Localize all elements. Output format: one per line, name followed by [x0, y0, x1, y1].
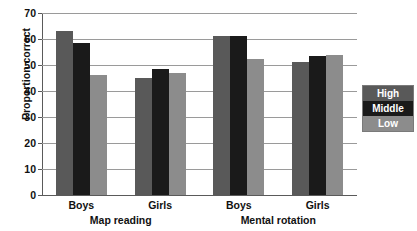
bar-high-girls-3: [292, 62, 309, 195]
group-label-boys-2: Boys: [226, 199, 252, 211]
bar-low-boys-2: [247, 59, 264, 196]
panel-label-map-reading: Map reading: [90, 214, 152, 226]
bar-high-boys-0: [56, 31, 73, 195]
y-tick-label: 10: [24, 163, 36, 175]
plot-area: 010203040506070: [42, 13, 357, 196]
y-tick-label: 60: [24, 33, 36, 45]
panel-label-mental-rotation: Mental rotation: [241, 214, 316, 226]
bar-low-girls-1: [169, 73, 186, 195]
legend-item-middle[interactable]: Middle: [363, 101, 413, 116]
y-tick-mark: [38, 91, 42, 92]
group-label-girls-1: Girls: [148, 199, 172, 211]
group-label-boys-0: Boys: [69, 199, 95, 211]
chart-legend[interactable]: HighMiddleLow: [362, 85, 414, 132]
y-tick-label: 20: [24, 137, 36, 149]
y-tick-mark: [38, 169, 42, 170]
y-tick-mark: [38, 39, 42, 40]
y-tick-mark: [38, 195, 42, 196]
group-label-girls-3: Girls: [306, 199, 330, 211]
gridline: [42, 13, 357, 14]
y-tick-label: 30: [24, 111, 36, 123]
bar-middle-girls-1: [152, 69, 169, 195]
bar-chart-figure: Proportion correct 010203040506070 BoysG…: [0, 0, 417, 231]
gridline: [42, 39, 357, 40]
bar-middle-boys-2: [230, 36, 247, 195]
x-axis-line: [42, 195, 357, 196]
bar-middle-girls-3: [309, 56, 326, 195]
y-tick-label: 50: [24, 59, 36, 71]
bar-low-boys-0: [90, 75, 107, 195]
y-tick-mark: [38, 13, 42, 14]
y-tick-mark: [38, 65, 42, 66]
y-tick-mark: [38, 117, 42, 118]
bar-low-girls-3: [326, 55, 343, 195]
bar-middle-boys-0: [73, 43, 90, 195]
y-tick-label: 0: [30, 189, 36, 201]
bar-high-boys-2: [213, 36, 230, 195]
bar-high-girls-1: [135, 78, 152, 195]
y-tick-label: 70: [24, 7, 36, 19]
y-axis-title: Proportion correct: [20, 0, 32, 154]
y-tick-label: 40: [24, 85, 36, 97]
legend-item-high[interactable]: High: [363, 86, 413, 101]
legend-item-low[interactable]: Low: [363, 116, 413, 131]
y-tick-mark: [38, 143, 42, 144]
